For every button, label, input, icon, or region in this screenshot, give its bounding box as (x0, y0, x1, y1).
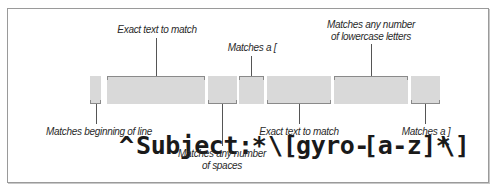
label-letters-line2: of lowercase letters (326, 31, 416, 43)
callout-line-gyro (299, 104, 300, 124)
label-spaces-line2: of spaces (177, 160, 267, 172)
bracket-top (107, 76, 205, 80)
token-subject: Subject: (107, 76, 205, 104)
label-caret: Matches beginning of line (46, 126, 146, 138)
label-letters-line1: Matches any number (326, 19, 416, 31)
callout-line-lbracket (251, 56, 252, 76)
token-caret: ^ (90, 76, 101, 104)
token-escaped-lbracket: \[ (239, 76, 264, 104)
callout-line-letters (371, 44, 372, 76)
label-rbracket: Matches a ] (398, 126, 454, 138)
label-subject: Exact text to match (116, 24, 198, 36)
callout-line-spaces (222, 104, 223, 146)
token-gyro: gyro- (267, 76, 331, 104)
label-gyro: Exact text to match (258, 126, 340, 138)
token-escaped-rbracket: \] (411, 76, 440, 104)
bracket-top (334, 76, 408, 80)
callout-line-rbracket (425, 104, 426, 124)
token-spaces-star: * (208, 76, 237, 104)
bracket-top (239, 76, 264, 80)
label-lbracket: Matches a [ (224, 42, 280, 54)
callout-line-subject (156, 38, 157, 76)
callout-line-caret (96, 104, 97, 124)
token-lowercase-class: [a-z]* (334, 76, 408, 104)
label-spaces-line1: Matches any number (177, 148, 267, 160)
